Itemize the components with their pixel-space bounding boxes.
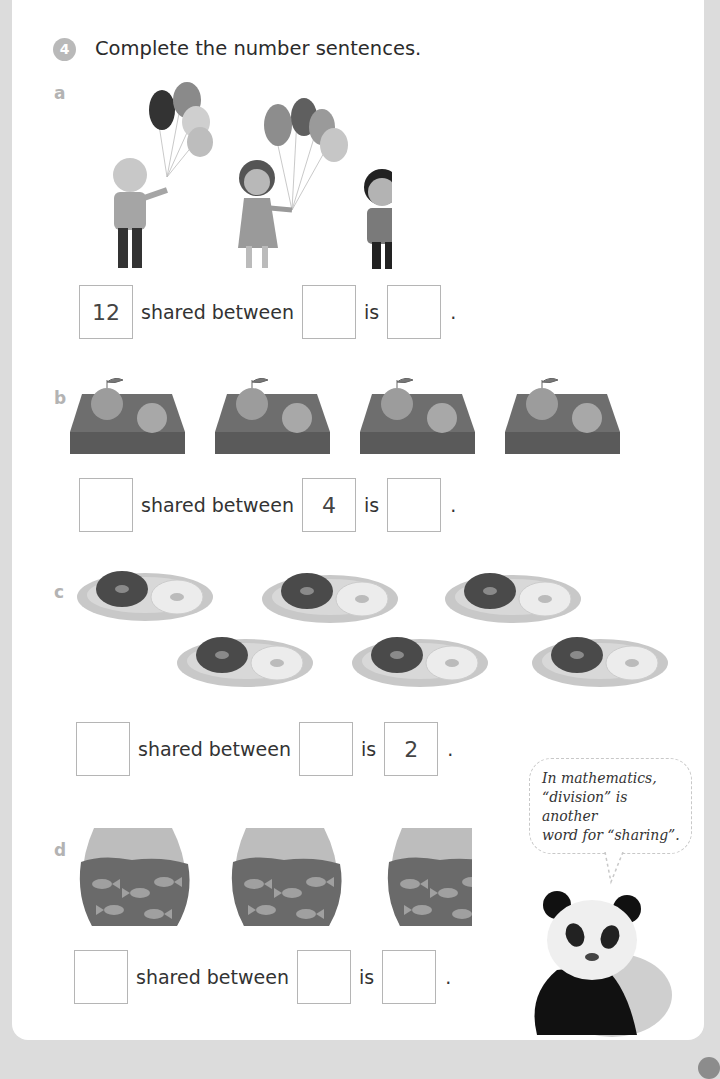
page-corner-marker	[698, 1057, 720, 1079]
is-text: is	[364, 301, 379, 323]
bubble-line-2: “division” is another	[542, 788, 685, 826]
bubble-line-1: In mathematics,	[542, 769, 685, 788]
answer-box-c-2[interactable]	[299, 722, 353, 776]
sentence-a: 12 shared between is .	[79, 285, 456, 339]
is-text: is	[359, 966, 374, 988]
shared-between-text: shared between	[141, 494, 294, 516]
is-text: is	[364, 494, 379, 516]
answer-box-a-1[interactable]: 12	[79, 285, 133, 339]
part-d-label: d	[54, 840, 66, 860]
trays-of-oranges-image	[67, 372, 677, 462]
full-stop: .	[450, 494, 456, 516]
part-a-label: a	[54, 83, 65, 103]
panda-image	[517, 885, 682, 1040]
answer-box-a-2[interactable]	[302, 285, 356, 339]
answer-box-c-3[interactable]: 2	[384, 722, 438, 776]
full-stop: .	[447, 738, 453, 760]
is-text: is	[361, 738, 376, 760]
sentence-b: shared between 4 is .	[79, 478, 456, 532]
bubble-line-3: word for “sharing”.	[542, 826, 685, 845]
children-with-balloons-image	[92, 70, 392, 270]
answer-box-b-1[interactable]	[79, 478, 133, 532]
speech-bubble-tail	[597, 852, 627, 887]
shared-between-text: shared between	[141, 301, 294, 323]
shared-between-text: shared between	[136, 966, 289, 988]
answer-box-d-1[interactable]	[74, 950, 128, 1004]
full-stop: .	[450, 301, 456, 323]
part-c-label: c	[54, 582, 64, 602]
fishbowls-image	[72, 822, 472, 932]
part-b-label: b	[54, 388, 66, 408]
answer-box-c-1[interactable]	[76, 722, 130, 776]
answer-box-d-3[interactable]	[382, 950, 436, 1004]
full-stop: .	[445, 966, 451, 988]
answer-box-b-2[interactable]: 4	[302, 478, 356, 532]
answer-box-b-3[interactable]	[387, 478, 441, 532]
speech-bubble: In mathematics, “division” is another wo…	[529, 758, 692, 854]
sentence-c: shared between is 2 .	[76, 722, 453, 776]
question-number-badge: 4	[53, 38, 76, 61]
worksheet-page: 4 Complete the number sentences. a	[12, 0, 704, 1040]
answer-box-a-3[interactable]	[387, 285, 441, 339]
answer-box-d-2[interactable]	[297, 950, 351, 1004]
shared-between-text: shared between	[138, 738, 291, 760]
question-title: Complete the number sentences.	[95, 37, 421, 60]
sentence-d: shared between is .	[74, 950, 451, 1004]
plates-of-doughnuts-image	[77, 565, 677, 705]
